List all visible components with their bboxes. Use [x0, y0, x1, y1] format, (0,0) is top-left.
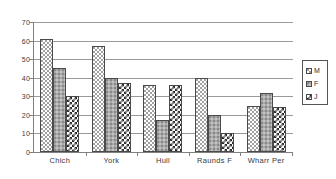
bar-chart: 70 60 50 40 30 20 10 0 — [0, 0, 336, 179]
y-tick-label: 60 — [8, 38, 30, 45]
y-tick-label: 0 — [8, 149, 30, 156]
legend-swatch-j-icon — [306, 94, 312, 100]
bar-group-raunds-f — [189, 22, 241, 152]
bar-raunds-f-j — [221, 133, 234, 152]
y-tick-label: 40 — [8, 75, 30, 82]
bar-wharr-per-j — [273, 107, 286, 152]
bar-hull-j — [169, 85, 182, 152]
bar-chich-f — [53, 68, 66, 152]
x-tick-label-chich: Chich — [34, 156, 86, 172]
bar-york-j — [118, 83, 131, 152]
bar-chich-j — [66, 96, 79, 152]
bar-chich-m — [40, 39, 53, 152]
bar-group-chich — [34, 22, 86, 152]
y-tick-label: 70 — [8, 19, 30, 26]
y-tick-label: 30 — [8, 93, 30, 100]
legend-label-f: F — [314, 80, 318, 87]
bar-hull-f — [156, 120, 169, 153]
bar-york-f — [105, 78, 118, 152]
y-tick-label: 50 — [8, 56, 30, 63]
bar-group-wharr-per — [240, 22, 292, 152]
legend-swatch-m-icon — [306, 68, 312, 74]
legend-label-m: M — [314, 67, 320, 74]
y-axis: 70 60 50 40 30 20 10 0 — [0, 0, 30, 179]
bar-wharr-per-m — [247, 106, 260, 152]
legend-item-f: F — [306, 77, 327, 90]
legend-swatch-f-icon — [306, 81, 312, 87]
bar-raunds-f-f — [208, 115, 221, 152]
legend: M F J — [302, 60, 328, 105]
y-tick-label: 10 — [8, 130, 30, 137]
x-tick-label-wharr-per: Wharr Per — [240, 156, 292, 172]
x-tick-label-york: York — [86, 156, 138, 172]
x-axis: Chich York Hull Raunds F Wharr Per — [34, 156, 292, 172]
bar-hull-m — [143, 85, 156, 152]
legend-item-j: J — [306, 90, 327, 103]
legend-item-m: M — [306, 64, 327, 77]
y-tick-label: 20 — [8, 112, 30, 119]
bar-wharr-per-f — [260, 93, 273, 152]
bar-raunds-f-m — [195, 78, 208, 152]
legend-label-j: J — [314, 93, 318, 100]
bar-groups — [34, 22, 292, 152]
x-tick-label-hull: Hull — [137, 156, 189, 172]
bar-group-hull — [137, 22, 189, 152]
x-tick-label-raunds-f: Raunds F — [189, 156, 241, 172]
x-tick-mark — [292, 152, 293, 156]
bar-york-m — [92, 46, 105, 152]
bar-group-york — [86, 22, 138, 152]
